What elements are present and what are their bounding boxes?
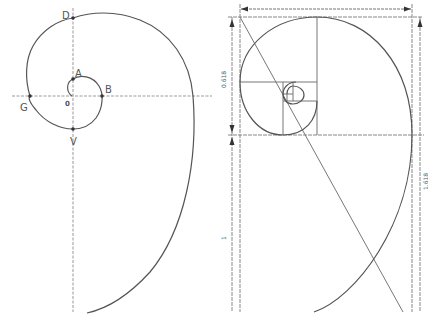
arrow-down-icon (230, 125, 235, 133)
dimension-label-0618: 0.618 (220, 71, 227, 88)
dimension-label-1: 1 (220, 236, 227, 240)
label-a: A (75, 68, 82, 79)
diagonal-line (240, 17, 403, 312)
arrow-up-icon (230, 137, 235, 145)
diagram-canvas: D A B G V 0 (0, 0, 428, 324)
label-g: G (20, 102, 28, 113)
point-b (100, 94, 104, 98)
dimension-label-1618: 1.618 (422, 173, 428, 190)
arrow-up-icon (418, 19, 423, 27)
arrow-right-icon (404, 7, 411, 12)
spiral-inner-start (68, 79, 73, 96)
left-diagram: D A B G V 0 (12, 8, 212, 313)
arrow-left-icon (241, 7, 248, 12)
label-d: D (62, 10, 70, 21)
label-v: V (70, 136, 77, 147)
point-v (71, 127, 75, 131)
right-diagram: 0.618 1 1.618 (220, 4, 428, 312)
golden-spiral-link (283, 101, 317, 135)
point-g (28, 94, 32, 98)
label-b: B (105, 84, 112, 95)
spiral-curve (27, 13, 194, 313)
point-d (71, 16, 75, 20)
arrow-up-icon (230, 19, 235, 27)
golden-spiral (240, 17, 412, 312)
label-origin: 0 (65, 100, 70, 108)
